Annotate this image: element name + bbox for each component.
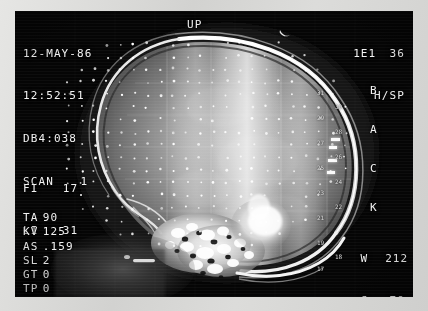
technique-key: TA [23, 211, 43, 225]
technique-key: TP [23, 282, 43, 296]
slice-tick-label: 31 [317, 89, 324, 96]
slice-tick-label: 25 [317, 164, 324, 171]
window-center-value: 70 [385, 294, 405, 297]
technique-value: 2 [43, 254, 51, 268]
technique-value: 0 [43, 268, 51, 282]
technique-value: 125 [43, 225, 66, 239]
slice-tick-label: 26 [335, 153, 342, 160]
slice-position-scale: 3130292827262524232221191817 [317, 89, 361, 269]
technique-row-gt: GT0 [23, 268, 74, 282]
slice-tick-label: 30 [335, 103, 342, 110]
window-center-row: C 70 [359, 294, 405, 297]
first-image-key: FI [23, 182, 43, 196]
slice-tick-label: 27 [317, 139, 324, 146]
slice-tick-label: 21 [317, 214, 324, 221]
window-center-label: C [361, 294, 368, 297]
study-time: 12:52:51 [23, 89, 93, 103]
study-id: DB4:038 [23, 132, 93, 146]
slice-tick-label: 18 [335, 253, 342, 260]
technique-row-tp: TP0 [23, 282, 74, 296]
first-image-value: 17 [63, 182, 78, 196]
mode-value: 36 [390, 47, 405, 60]
crescent-marker-svg [279, 29, 291, 38]
mode-code: 1E1 [353, 47, 376, 60]
console-frame: 12-MAY-86 12:52:51 DB4:038 SCAN1 UP 1E13… [0, 0, 428, 311]
technique-row-kv: KV125 [23, 225, 74, 239]
technique-row-as: AS.159 [23, 240, 74, 254]
slice-tick-label: 19 [317, 239, 324, 246]
technique-key: KV [23, 225, 43, 239]
technique-key: SL [23, 254, 43, 268]
technique-row-ta: TA90 [23, 211, 74, 225]
study-date: 12-MAY-86 [23, 47, 93, 61]
slice-tick-label: 29 [317, 114, 324, 121]
technique-value: 90 [43, 211, 58, 225]
slice-tick-label: 17 [317, 265, 324, 272]
window-level-block: W 212 C 70 [359, 223, 405, 297]
technique-key: GT [23, 268, 43, 282]
orientation-up-label: UP [187, 18, 202, 32]
slice-tick-label: 22 [335, 203, 342, 210]
technique-value: 0 [43, 282, 51, 296]
slice-tick-label: 28 [335, 128, 342, 135]
first-image-row: FI17 [23, 182, 78, 196]
technique-key: AS [23, 240, 43, 254]
scan-number: 1 [80, 175, 88, 188]
slice-tick-label: 24 [335, 178, 342, 185]
crescent-marker-icon [279, 23, 291, 32]
technique-row-sl: SL2 [23, 254, 74, 268]
window-width-row: W 212 [359, 252, 405, 266]
scan-display-screen[interactable]: 12-MAY-86 12:52:51 DB4:038 SCAN1 UP 1E13… [15, 11, 413, 297]
slice-tick-label: 23 [317, 189, 324, 196]
window-width-label: W [361, 252, 368, 266]
technique-value: .159 [43, 240, 74, 254]
window-width-value: 212 [385, 252, 405, 266]
technique-parameters-block: TA90KV125AS.159SL2GT0TP0 [23, 211, 74, 297]
